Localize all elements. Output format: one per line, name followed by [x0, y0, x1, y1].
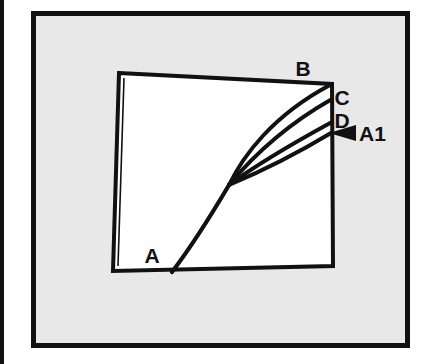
curve-label-B: B — [295, 57, 310, 80]
left-margin-bar — [0, 0, 4, 364]
curve-label-C: C — [334, 86, 349, 109]
figure-root: A B C D A1 — [0, 0, 424, 364]
figure-diagram: A B C D A1 — [0, 0, 424, 364]
curve-label-A1: A1 — [359, 122, 386, 145]
curve-label-A: A — [144, 244, 159, 267]
curve-label-D: D — [334, 109, 349, 132]
